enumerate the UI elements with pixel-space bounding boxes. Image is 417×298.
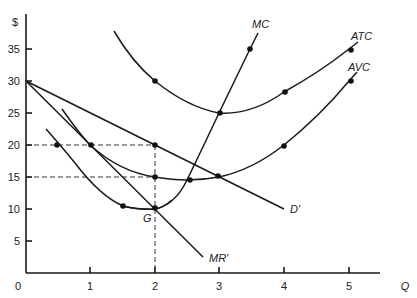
origin-label: 0 [15, 280, 21, 292]
x-tick-label: 1 [87, 280, 93, 292]
x-tick-label: 4 [281, 280, 287, 292]
point-q5-avc [348, 78, 354, 84]
y-tick-label: 25 [8, 107, 20, 119]
mc-label: MC [252, 18, 269, 30]
point-q4-avc [281, 143, 287, 149]
avc-curve [62, 72, 357, 180]
demand-label: D' [290, 203, 301, 215]
y-tick-label: 35 [8, 43, 20, 55]
point-q2-15 [152, 174, 158, 180]
point-q5-atc [348, 47, 354, 53]
atc-curve [114, 31, 358, 113]
mc-curve [123, 33, 258, 209]
cost-revenue-chart: $ 35 30 25 20 15 10 5 0 1 2 3 4 5 Q [0, 0, 417, 298]
point-q3-15 [215, 173, 221, 179]
point-mc-35 [247, 46, 253, 52]
point-g [152, 205, 158, 211]
point-left-curve-20 [54, 142, 60, 148]
point-g-label: G [143, 212, 152, 224]
x-tick-label: 5 [346, 280, 352, 292]
left-cost-curve [46, 129, 172, 209]
y-tick-label: 15 [8, 171, 20, 183]
x-axis-label: Q [401, 280, 410, 292]
y-tick-label: 20 [8, 139, 20, 151]
data-points [54, 46, 354, 211]
y-tick-labels: $ 35 30 25 20 15 10 5 [8, 16, 20, 247]
point-q2-20 [152, 142, 158, 148]
y-tick-label: 30 [8, 75, 20, 87]
point-q1-5-10-5 [120, 203, 126, 209]
x-tick-label: 3 [216, 280, 222, 292]
y-tick-label: 5 [14, 235, 20, 247]
axes [26, 14, 380, 273]
x-tick-labels: 0 1 2 3 4 5 Q [15, 280, 410, 292]
marginal-revenue-curve [26, 81, 203, 257]
y-tick-label: 10 [8, 203, 20, 215]
point-q3-atc-min [217, 110, 223, 116]
atc-label: ATC [350, 30, 372, 42]
x-tick-label: 2 [152, 280, 158, 292]
avc-label: AVC [347, 61, 370, 73]
point-q4-atc [282, 89, 288, 95]
point-q2-5-avc-min [187, 177, 193, 183]
y-axis-unit-label: $ [12, 16, 18, 28]
point-q1-20 [88, 142, 94, 148]
curve-labels: MC ATC AVC D' MR' G [143, 18, 372, 264]
mr-label: MR' [209, 252, 229, 264]
point-q2-30 [152, 78, 158, 84]
